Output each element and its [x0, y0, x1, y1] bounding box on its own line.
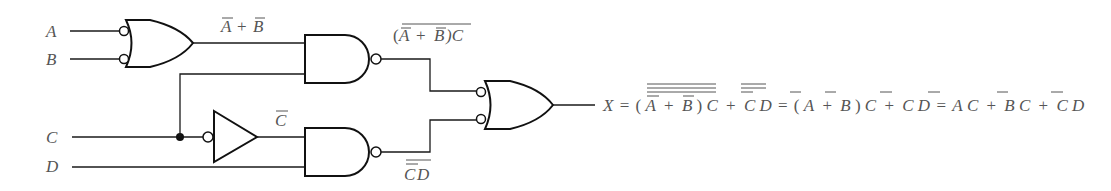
- expression-text: X = ( A + B ) C + C D = ( A + B ) C + C …: [602, 96, 1085, 115]
- g2-label-close-c: )C: [445, 26, 464, 45]
- g2-output-bubble: [371, 54, 381, 64]
- g3-label-c: C: [404, 165, 416, 184]
- g1-label-plus: +: [237, 17, 247, 36]
- wire-g3-out: [381, 120, 476, 152]
- wire-g2-out: [381, 59, 476, 91]
- input-label-c: C: [46, 128, 58, 147]
- g3-label-d: D: [416, 165, 430, 184]
- g3-output-bubble: [371, 147, 381, 157]
- input-label-b: B: [46, 50, 57, 69]
- input-bubble-a: [120, 27, 129, 36]
- input-bubble-b: [120, 55, 129, 64]
- gate-1-negative-and: [120, 20, 194, 67]
- g1-label-a: A: [220, 17, 232, 36]
- g4-input-bubble-2: [477, 115, 486, 124]
- output-expression: X = ( A + B ) C + C D = ( A + B ) C + C …: [602, 84, 1085, 115]
- g2-output-label: ( A + B )C: [393, 24, 471, 45]
- logic-circuit-diagram: A B C D A + B ( A + B )C: [0, 0, 1111, 191]
- gate-2-nand: [305, 35, 381, 83]
- g2-label-b: B: [434, 26, 445, 45]
- g4-input-bubble-1: [477, 88, 486, 97]
- inverter-input-bubble: [203, 132, 213, 142]
- gate-3-nand: [305, 128, 381, 176]
- input-label-d: D: [45, 157, 59, 176]
- g2-label-plus: +: [416, 26, 426, 45]
- inv-label-c: C: [275, 111, 287, 130]
- g3-output-label: C D: [404, 160, 431, 184]
- g1-label-b: B: [253, 17, 264, 36]
- g2-label-a: A: [398, 26, 410, 45]
- inverter-c: [203, 111, 257, 162]
- g1-output-label: A + B: [220, 17, 265, 36]
- gate-4-negative-and: [477, 81, 554, 129]
- input-label-a: A: [45, 22, 57, 41]
- not-c-label: C: [275, 111, 288, 130]
